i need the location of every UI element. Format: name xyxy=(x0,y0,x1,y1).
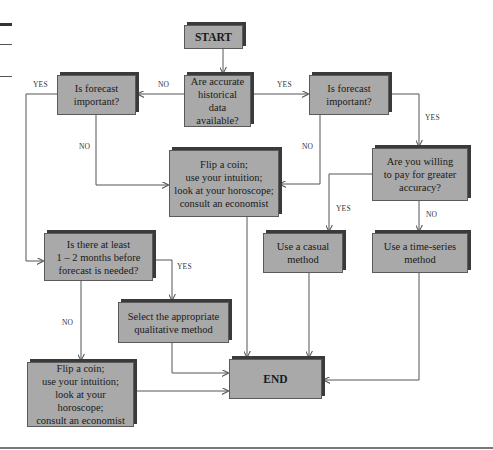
edge-label-left-yes: YES xyxy=(33,80,48,89)
forecast-important-right-decision: Is forecast important? xyxy=(309,75,389,115)
flip-coin-center-node: Flip a coin; use your intuition; look at… xyxy=(169,150,279,217)
end-node: END xyxy=(229,359,322,399)
edge-label-accurate-no: NO xyxy=(158,80,169,89)
edge-label-accurate-yes: YES xyxy=(277,80,292,89)
start-node: START xyxy=(184,25,243,49)
accurate-data-decision: Are accurate historical data available? xyxy=(184,75,251,127)
edge-label-lead-no: NO xyxy=(62,318,73,327)
flip-coin-bottom-node: Flip a coin; use your intuition; look at… xyxy=(27,362,134,427)
edge-label-left-no: NO xyxy=(79,142,90,151)
edge-label-pay-no: NO xyxy=(426,210,437,219)
edge-label-right-no: NO xyxy=(302,142,313,151)
time-series-method-node: Use a time-series method xyxy=(372,233,468,273)
edge-label-pay-yes: YES xyxy=(336,204,351,213)
lead-time-decision: Is there at least 1 – 2 months before fo… xyxy=(44,233,153,281)
casual-method-node: Use a casual method xyxy=(263,233,343,273)
forecast-important-left-decision: Is forecast important? xyxy=(57,75,136,115)
willing-pay-decision: Are you willing to pay for greater accur… xyxy=(372,148,468,201)
edge-label-right-yes: YES xyxy=(425,113,440,122)
edge-label-lead-yes: YES xyxy=(177,262,192,271)
qualitative-method-node: Select the appropriate qualitative metho… xyxy=(118,302,229,343)
